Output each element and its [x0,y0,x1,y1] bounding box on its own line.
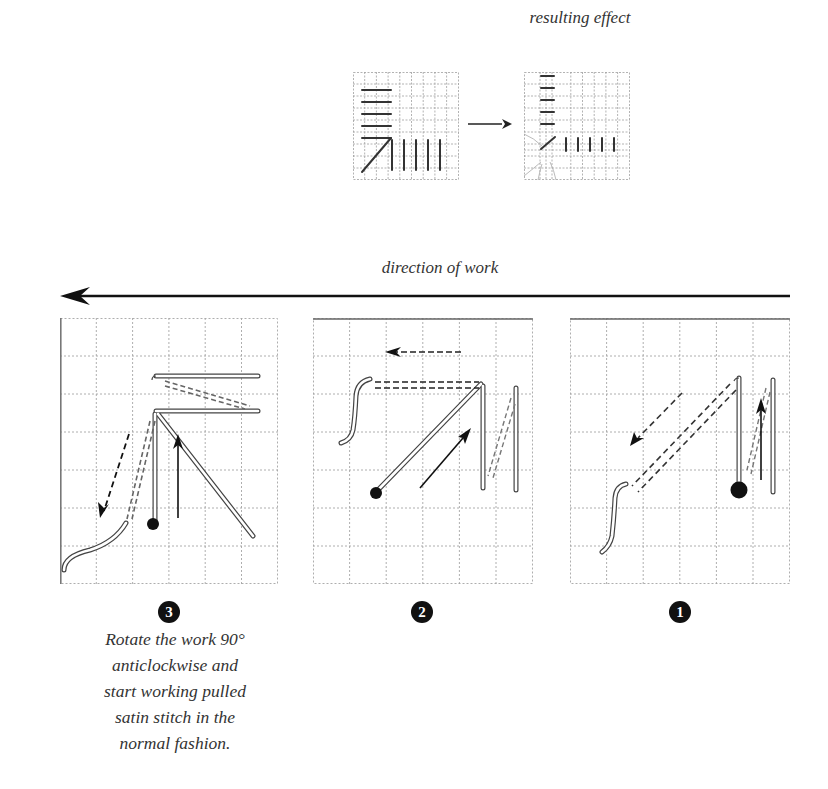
step-2-diagram [313,318,533,584]
step-3-description-line: anticlockwise and [50,652,300,678]
step-3-description-line: satin stitch in the [50,704,300,730]
step-3-description-line: normal fashion. [50,730,300,756]
right-arrow-icon [468,118,512,130]
step-1-number-badge: 1 [669,601,691,623]
step-3-description-line: start working pulled [50,678,300,704]
direction-of-work-label: direction of work [290,258,590,278]
resulting-effect-grid [524,72,630,180]
step-1-diagram [570,318,790,584]
step-3-description-line: Rotate the work 90° [50,626,300,652]
resulting-effect-label: resulting effect [500,8,660,28]
step-3-number-badge: 3 [158,601,180,623]
left-arrow-icon [60,286,790,306]
step-2-number-badge: 2 [411,601,433,623]
step-3-description: Rotate the work 90° anticlockwise and st… [50,626,300,756]
before-stitch-grid [353,72,459,180]
step-3-diagram [60,318,278,584]
